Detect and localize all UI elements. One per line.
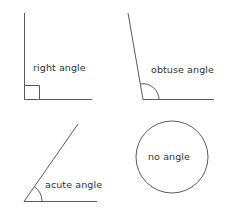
- obtuse-angle-slanted-ray: [128, 13, 143, 100]
- acute-angle-label: acute angle: [45, 179, 102, 190]
- no-angle-label: no angle: [148, 151, 190, 162]
- right-angle-figure: [24, 13, 92, 100]
- obtuse-angle-label: obtuse angle: [151, 64, 214, 75]
- angles-vector-canvas: [0, 0, 229, 222]
- acute-angle-arc-marker-icon: [34, 187, 42, 202]
- angle-types-diagram: right angle obtuse angle acute angle no …: [0, 0, 229, 222]
- right-angle-label: right angle: [33, 62, 86, 73]
- obtuse-angle-arc-marker-icon: [141, 84, 159, 100]
- obtuse-angle-figure: [128, 13, 214, 100]
- right-angle-square-marker-icon: [25, 86, 40, 100]
